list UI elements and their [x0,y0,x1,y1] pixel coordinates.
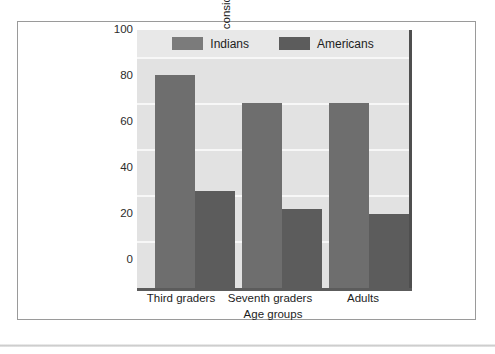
x-axis-tick-labels: Third graders Seventh graders Adults [137,292,409,308]
legend-label-indians: Indians [210,37,249,51]
legend-item-americans: Americans [279,37,374,51]
y-axis-tick-labels: 100 80 60 40 20 0 [105,30,133,288]
bar-seventh-graders-americans [282,209,322,288]
y-tick-40: 40 [120,162,133,174]
legend-label-americans: Americans [317,37,374,51]
x-tick-adults: Adults [317,292,409,304]
bar-third-graders-indians [155,75,195,288]
y-tick-60: 60 [120,116,133,128]
plot-wrapper: Indians Americans [137,30,415,288]
bar-seventh-graders-indians [242,103,282,288]
y-tick-20: 20 [120,208,133,220]
chart-legend: Indians Americans [137,33,409,54]
y-tick-100: 100 [114,24,133,36]
x-tick-seventh-graders: Seventh graders [215,292,325,304]
x-axis-title: Age groups [137,308,409,320]
bar-third-graders-americans [195,191,235,288]
legend-swatch-americans-icon [279,37,310,50]
plot-right-border [409,30,412,288]
page-bottom-rule [0,344,495,347]
legend-swatch-indians-icon [172,37,203,50]
bar-adults-americans [369,214,409,288]
x-axis-baseline [137,288,412,291]
bar-adults-indians [329,103,369,288]
plot-area: Indians Americans [137,30,409,288]
y-tick-0: 0 [127,254,133,266]
y-tick-80: 80 [120,70,133,82]
legend-item-indians: Indians [172,37,249,51]
gridline-100 [137,57,409,59]
